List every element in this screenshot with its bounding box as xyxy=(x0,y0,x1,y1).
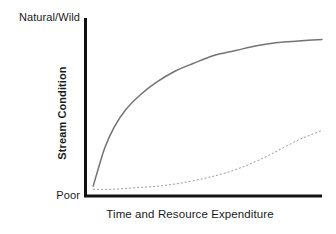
y-axis-title: Stream Condition xyxy=(56,13,68,213)
series-line-saturating xyxy=(93,39,322,186)
chart-figure: Natural/Wild Poor Stream Condition Time … xyxy=(0,0,336,234)
x-axis-title: Time and Resource Expenditure xyxy=(63,208,317,220)
y-axis-tick-label-bottom: Poor xyxy=(0,189,80,201)
y-axis-tick-label-top: Natural/Wild xyxy=(0,11,80,23)
series-line-accelerating xyxy=(93,130,322,189)
